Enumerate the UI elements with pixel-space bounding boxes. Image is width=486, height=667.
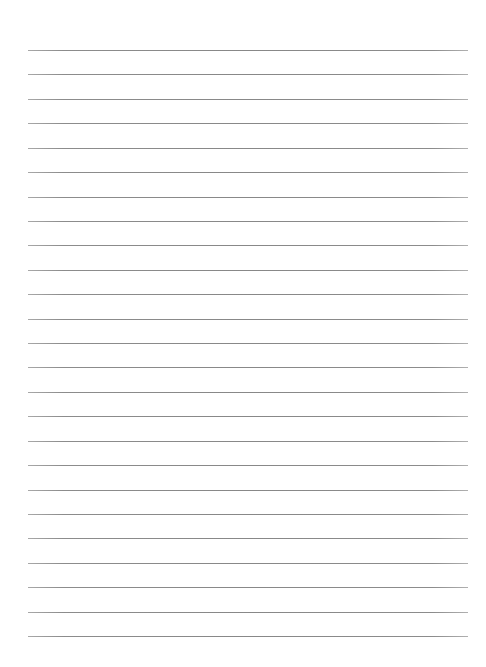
ruled-line xyxy=(28,465,468,466)
ruled-line xyxy=(28,514,468,515)
ruled-line xyxy=(28,270,468,271)
ruled-line xyxy=(28,245,468,246)
ruled-lines xyxy=(0,0,486,667)
ruled-line xyxy=(28,319,468,320)
ruled-line xyxy=(28,294,468,295)
ruled-line xyxy=(28,99,468,100)
ruled-line xyxy=(28,148,468,149)
ruled-line xyxy=(28,123,468,124)
ruled-line xyxy=(28,612,468,613)
ruled-line xyxy=(28,74,468,75)
ruled-line xyxy=(28,392,468,393)
ruled-line xyxy=(28,343,468,344)
ruled-line xyxy=(28,416,468,417)
ruled-line xyxy=(28,221,468,222)
ruled-line xyxy=(28,490,468,491)
ruled-line xyxy=(28,172,468,173)
ruled-line xyxy=(28,367,468,368)
ruled-line xyxy=(28,538,468,539)
ruled-line xyxy=(28,50,468,51)
ruled-line xyxy=(28,636,468,637)
ruled-line xyxy=(28,441,468,442)
ruled-line xyxy=(28,197,468,198)
lined-paper-page xyxy=(0,0,486,667)
ruled-line xyxy=(28,587,468,588)
ruled-line xyxy=(28,563,468,564)
